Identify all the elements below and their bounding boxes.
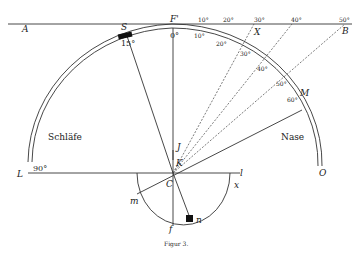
label-f-prime: F': [169, 14, 179, 24]
line-sn: [173, 173, 190, 218]
label-m-small: m: [130, 196, 139, 206]
top-tick-20: 20°: [223, 16, 234, 23]
label-m: M: [299, 88, 310, 98]
arc-tick-40: 40°: [257, 65, 268, 72]
label-o: O: [319, 168, 327, 178]
region-temple: Schläfe: [48, 132, 82, 142]
perimeter-arc-inner: [32, 28, 318, 166]
label-b: B: [341, 26, 349, 36]
dash-40: [173, 24, 292, 173]
top-tick-30: 30°: [254, 16, 265, 23]
label-k: K: [175, 158, 184, 168]
top-tick-40: 40°: [291, 16, 302, 23]
arc-tick-30: 30°: [240, 50, 251, 57]
label-x-small: x: [234, 180, 239, 190]
perimeter-arc-outer: [28, 24, 322, 166]
figure-caption: Figur 3.: [164, 240, 188, 248]
arc-tick-60: 60°: [287, 96, 298, 103]
line-m: [137, 110, 302, 194]
label-s: S: [121, 22, 127, 32]
top-tick-50: 50°: [339, 16, 350, 23]
dash-x: [173, 24, 254, 173]
label-c: C: [166, 179, 173, 189]
arc-tick-20: 20°: [216, 40, 227, 47]
dash-b: [173, 24, 345, 173]
label-x: X: [253, 27, 261, 37]
label-l-small: l: [240, 168, 243, 178]
n-marker: [186, 215, 193, 222]
small-semicircle: [137, 173, 230, 225]
arc-tick-90: 90°: [33, 164, 47, 173]
arc-tick-50: 50°: [276, 80, 287, 87]
arc-tick-15: 15°: [121, 39, 135, 48]
top-tick-10: 10°: [198, 16, 209, 23]
region-nose: Nase: [281, 132, 304, 142]
perimeter-diagram: A B F' S X M L O K J C l x m n f 10° 20°…: [0, 0, 363, 257]
label-f: f: [168, 224, 174, 234]
label-a: A: [21, 24, 29, 34]
arc-tick-0: 0°: [170, 31, 179, 40]
line-s: [127, 36, 173, 173]
arc-tick-10: 10°: [194, 32, 205, 39]
label-l-big: L: [16, 169, 23, 179]
label-n: n: [196, 215, 202, 225]
label-j: J: [175, 142, 182, 152]
